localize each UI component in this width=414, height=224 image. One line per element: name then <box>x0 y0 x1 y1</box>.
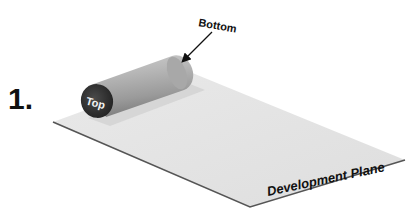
bottom-label: Bottom <box>198 16 238 35</box>
diagram-canvas: Development Plane Top Bottom <box>0 0 414 224</box>
arrow-icon <box>183 32 212 61</box>
step-number: 1. <box>8 84 33 114</box>
development-diagram: Development Plane Top Bottom 1. <box>0 0 414 224</box>
bottom-callout: Bottom <box>183 16 238 61</box>
